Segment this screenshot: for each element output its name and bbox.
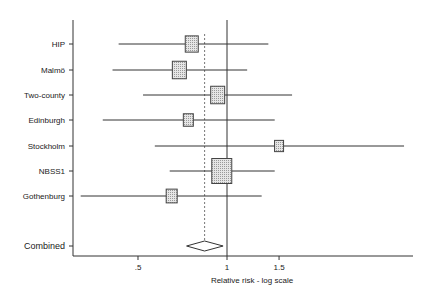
study-row: Stockholm — [28, 140, 404, 151]
study-row: Malmö — [41, 61, 247, 79]
forest-plot: .511.5 HIPMalmöTwo-countyEdinburghStockh… — [0, 0, 431, 296]
study-label: Edinburgh — [29, 116, 65, 125]
study-row: Two-county — [24, 86, 292, 104]
study-label: Malmö — [41, 66, 66, 75]
combined-diamond — [187, 241, 223, 251]
point-estimate-box — [212, 159, 232, 184]
study-label: HIP — [52, 40, 65, 49]
point-estimate-box — [185, 36, 198, 52]
point-estimate-box — [183, 114, 193, 127]
x-tick-label: .5 — [135, 263, 142, 272]
point-estimate-box — [211, 86, 225, 104]
x-tick-label: 1 — [225, 263, 230, 272]
point-estimate-box — [172, 61, 186, 79]
x-tick-label: 1.5 — [273, 263, 285, 272]
study-row: Edinburgh — [29, 114, 275, 127]
study-label: NBSS1 — [39, 167, 66, 176]
study-label: Two-county — [24, 91, 65, 100]
reference-lines — [205, 20, 227, 256]
x-axis-label: Relative risk - log scale — [211, 276, 294, 285]
combined-label: Combined — [24, 241, 65, 251]
point-estimate-box — [275, 140, 284, 151]
study-row: Gothenburg — [23, 189, 262, 203]
study-row: HIP — [52, 36, 269, 52]
study-rows: HIPMalmöTwo-countyEdinburghStockholmNBSS… — [23, 36, 404, 203]
study-label: Gothenburg — [23, 192, 65, 201]
study-label: Stockholm — [28, 142, 66, 151]
combined-estimate: Combined — [24, 241, 223, 251]
point-estimate-box — [166, 189, 177, 203]
study-row: NBSS1 — [39, 159, 275, 184]
